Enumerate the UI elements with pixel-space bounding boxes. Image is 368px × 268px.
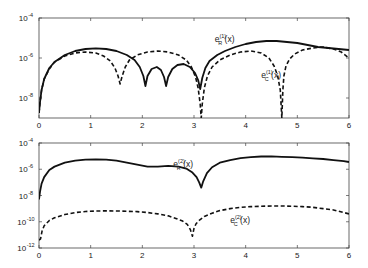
x-tick-label: 2 [140, 251, 145, 260]
x-tick-label: 0 [37, 251, 42, 260]
series-label: e(1)R(x) [215, 33, 235, 46]
dashed-series-line [39, 206, 349, 240]
x-tick-label: 4 [243, 121, 248, 130]
x-tick-label: 1 [88, 251, 93, 260]
x-tick-label: 1 [88, 121, 93, 130]
dashed-series-line [39, 47, 349, 118]
chart-canvas: 012345610-410-610-8e(1)R(x)e(1)C(x) 0123… [0, 0, 368, 268]
y-tick-label: 10-8 [19, 190, 33, 201]
solid-series-line [39, 156, 349, 199]
x-tick-label: 3 [192, 121, 197, 130]
y-tick-label: 10-6 [19, 52, 33, 63]
bottom-panel: 012345610-410-610-810-1010-12e(2)R(x)e(2… [17, 137, 351, 260]
y-tick-label: 10-4 [19, 12, 33, 23]
series-label: e(2)R(x) [173, 158, 193, 171]
x-tick-label: 5 [295, 251, 300, 260]
x-tick-label: 6 [347, 251, 352, 260]
y-tick-label: 10-10 [17, 216, 34, 227]
x-tick-label: 3 [192, 251, 197, 260]
x-tick-label: 0 [37, 121, 42, 130]
x-tick-label: 4 [243, 251, 248, 260]
x-tick-label: 2 [140, 121, 145, 130]
plot-frame [39, 18, 349, 118]
series-label: e(2)C(x) [230, 214, 250, 227]
x-tick-label: 6 [347, 121, 352, 130]
y-tick-label: 10-4 [19, 137, 33, 148]
y-tick-label: 10-6 [19, 163, 33, 174]
top-panel: 012345610-410-610-8e(1)R(x)e(1)C(x) [19, 12, 352, 130]
series-label: e(1)C(x) [261, 69, 281, 82]
y-tick-label: 10-8 [19, 92, 33, 103]
plot-frame [39, 143, 349, 248]
y-tick-label: 10-12 [17, 242, 34, 253]
x-tick-label: 5 [295, 121, 300, 130]
